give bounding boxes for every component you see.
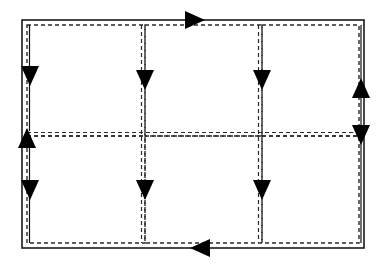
arrowheads-group xyxy=(18,11,370,257)
left-col1-row2-arrow xyxy=(21,180,39,200)
dashed-cell-group xyxy=(27,25,359,243)
cell-r1-c3 xyxy=(262,25,359,136)
routing-flow-diagram xyxy=(0,0,388,267)
cell-r2-c2 xyxy=(145,136,262,243)
left-col1-arrow xyxy=(21,66,39,86)
cell-r1-c2 xyxy=(145,25,262,136)
top-edge-arrow xyxy=(185,11,205,29)
right-down-arrow xyxy=(352,125,370,145)
left-mid-up-arrow xyxy=(18,128,36,148)
outer-border-rect xyxy=(22,20,364,248)
div1-col-row1-arrow xyxy=(136,70,154,90)
arrow-shaft-group xyxy=(30,25,362,243)
cell-r2-c1 xyxy=(27,136,145,243)
div2-col-row2-arrow xyxy=(253,180,271,200)
bottom-edge-arrow xyxy=(190,239,210,257)
right-up-arrow xyxy=(352,78,370,98)
outer-boundary-group xyxy=(22,20,364,248)
cell-r1-c1 xyxy=(27,25,145,136)
div2-col-row1-arrow xyxy=(253,70,271,90)
flow-diagram-canvas xyxy=(0,0,388,267)
div1-col-row2-arrow xyxy=(136,180,154,200)
divider-trace-group xyxy=(27,25,359,243)
cell-r2-c3 xyxy=(262,136,359,243)
